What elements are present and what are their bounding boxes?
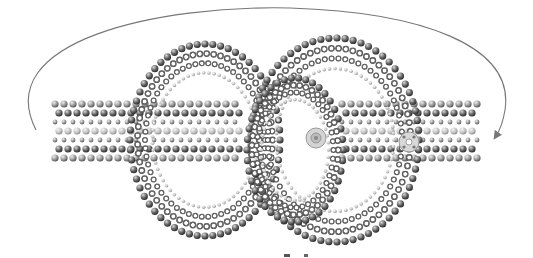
snap-female <box>399 132 419 152</box>
diagram-canvas <box>0 0 533 258</box>
bracelet-diagram <box>0 0 533 258</box>
wrap-arrow <box>28 8 505 136</box>
cropped-caption-fragment <box>284 254 308 257</box>
snap-male <box>306 128 326 148</box>
